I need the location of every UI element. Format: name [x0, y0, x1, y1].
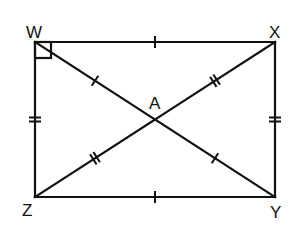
vertex-label-z: Z: [22, 201, 32, 220]
rectangle-diagram: W X Z Y A: [0, 0, 295, 225]
vertex-label-y: Y: [270, 203, 281, 222]
tick-mark-ay: [212, 153, 219, 163]
vertex-label-x: X: [269, 23, 280, 42]
vertex-label-w: W: [26, 23, 42, 42]
segment-az: [35, 120, 155, 198]
intersection-label-a: A: [149, 94, 161, 113]
segment-xa: [155, 42, 275, 120]
tick-mark-wa: [92, 76, 99, 86]
